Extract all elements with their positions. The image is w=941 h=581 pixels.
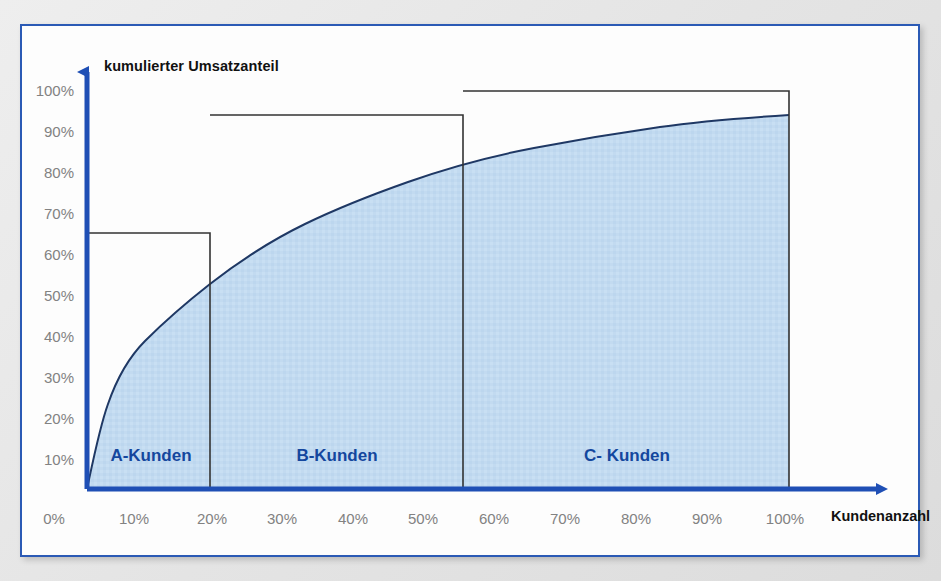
y-tick-label-30: 30% [22, 369, 74, 386]
x-tick-label-30: 30% [254, 510, 310, 527]
x-axis-title: Kundenanzahl [831, 508, 930, 524]
segment-label-c: C- Kunden [465, 446, 789, 466]
x-tick-label-40: 40% [325, 510, 381, 527]
x-tick-label-80: 80% [608, 510, 664, 527]
segment-label-a: A-Kunden [88, 446, 214, 466]
y-tick-label-100: 100% [22, 82, 74, 99]
y-tick-label-50: 50% [22, 287, 74, 304]
x-tick-label-90: 90% [679, 510, 735, 527]
x-tick-label-10: 10% [106, 510, 162, 527]
y-tick-label-80: 80% [22, 164, 74, 181]
x-tick-label-50: 50% [395, 510, 451, 527]
segment-label-b: B-Kunden [212, 446, 462, 466]
x-tick-label-60: 60% [466, 510, 522, 527]
x-tick-label-100: 100% [757, 510, 813, 527]
chart-card: kumulierter Umsatzanteil Kundenanzahl 10… [20, 24, 920, 557]
y-tick-label-10: 10% [22, 451, 74, 468]
screenshot-root: kumulierter Umsatzanteil Kundenanzahl 10… [0, 0, 941, 581]
y-tick-label-40: 40% [22, 328, 74, 345]
x-tick-label-0: 0% [26, 510, 82, 527]
y-tick-label-70: 70% [22, 205, 74, 222]
y-tick-label-90: 90% [22, 123, 74, 140]
y-axis-title: kumulierter Umsatzanteil [104, 58, 279, 74]
y-tick-label-60: 60% [22, 246, 74, 263]
y-tick-label-20: 20% [22, 410, 74, 427]
x-tick-label-20: 20% [184, 510, 240, 527]
abc-analysis-chart [22, 26, 922, 559]
x-tick-label-70: 70% [537, 510, 593, 527]
